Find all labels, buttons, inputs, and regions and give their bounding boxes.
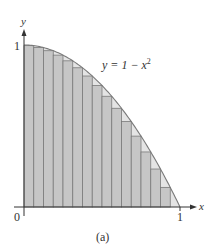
- riemann-rectangle: [151, 169, 161, 207]
- riemann-rectangle: [141, 152, 151, 207]
- riemann-rectangle: [92, 86, 102, 208]
- riemann-rectangle: [34, 48, 44, 207]
- x-axis-arrow-icon: [190, 205, 197, 210]
- equation-exponent: 2: [147, 57, 151, 66]
- riemann-rectangle: [102, 96, 112, 207]
- equation-lhs: y = 1 − x: [101, 58, 148, 72]
- riemann-rectangle: [161, 187, 171, 207]
- riemann-sum-figure: y 1 x 0 1 y = 1 − x2 (a): [0, 0, 213, 248]
- riemann-rectangle: [44, 51, 54, 207]
- origin-label: 0: [14, 210, 20, 224]
- y-tick-label-1: 1: [14, 39, 20, 53]
- riemann-rectangle: [53, 55, 63, 207]
- y-axis-arrow-icon: [22, 29, 27, 36]
- riemann-rectangle: [73, 68, 83, 207]
- equation-label: y = 1 − x2: [101, 57, 151, 72]
- riemann-rectangle: [122, 122, 132, 207]
- riemann-rectangles: [24, 46, 170, 207]
- riemann-rectangle: [24, 46, 34, 207]
- riemann-rectangle: [83, 76, 93, 207]
- x-axis-label: x: [198, 200, 204, 212]
- y-axis-label: y: [20, 15, 26, 27]
- riemann-rectangle: [131, 136, 141, 207]
- x-tick-label-1: 1: [177, 210, 183, 224]
- riemann-rectangle: [112, 108, 122, 207]
- riemann-rectangle: [63, 61, 73, 207]
- figure-caption: (a): [96, 230, 109, 244]
